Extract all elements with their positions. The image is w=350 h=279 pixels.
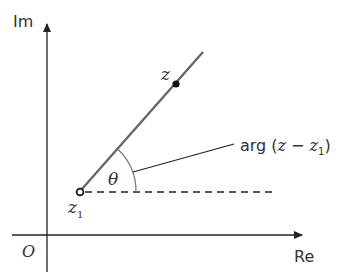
arg-annotation-suffix: ) [324, 136, 330, 155]
arg-annotation-prefix: arg ( [240, 136, 278, 155]
point-z1-label: z1 [67, 197, 83, 220]
arg-annotation: arg (z − z1) [240, 136, 331, 157]
origin-label: O [22, 242, 35, 261]
angle-arc [118, 149, 137, 192]
arg-annotation-minus: − [286, 136, 310, 155]
real-axis-label: Re [294, 247, 314, 266]
point-z1 [77, 189, 84, 196]
point-z1-label-subscript: 1 [77, 209, 83, 220]
theta-label: θ [108, 169, 118, 189]
imaginary-axis-label: Im [13, 12, 33, 31]
point-z-label: z [160, 64, 171, 84]
annotation-pointer-line [133, 144, 234, 172]
point-z [172, 80, 179, 87]
argand-diagram: Im Re O θ arg (z − z1) z z1 [0, 0, 350, 279]
half-line-from-z1 [82, 52, 203, 189]
